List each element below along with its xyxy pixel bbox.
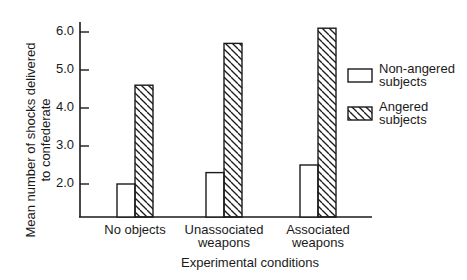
y-tick-label: 3.0 (34, 138, 74, 152)
legend-label-angered: Angered subjects (379, 100, 428, 126)
legend-label-non-angered: Non-angered subjects (379, 62, 455, 88)
bar-angered-2 (318, 28, 336, 217)
legend-swatch-angered (348, 107, 372, 120)
bar-non-angered-2 (300, 165, 318, 217)
x-axis-label: Experimental conditions (140, 255, 360, 270)
x-category-label: Associatedweapons (263, 223, 373, 249)
y-tick-label: 4.0 (34, 100, 74, 114)
bars (117, 28, 336, 217)
legend-line: subjects (379, 113, 428, 126)
y-tick-label: 2.0 (34, 176, 74, 190)
legend-swatch-non-angered (348, 69, 372, 82)
y-tick-label: 6.0 (34, 24, 74, 38)
bar-non-angered-0 (117, 184, 135, 217)
bar-angered-0 (135, 85, 153, 217)
legend-line: subjects (379, 75, 455, 88)
bar-angered-1 (224, 43, 242, 217)
legend (348, 69, 372, 120)
x-category-label-line: weapons (263, 236, 373, 249)
bar-non-angered-1 (206, 173, 224, 217)
y-tick-label: 5.0 (34, 62, 74, 76)
